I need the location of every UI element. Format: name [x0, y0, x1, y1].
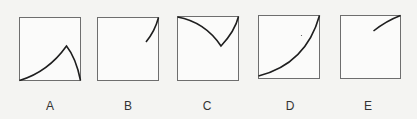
panel-e [341, 16, 401, 79]
panel-b-frame [98, 18, 159, 81]
panel-a-label: A [40, 99, 60, 113]
panel-e-frame [341, 16, 401, 79]
panel-d-frame [259, 16, 320, 79]
panel-c-label: C [197, 99, 217, 113]
panel-b-label: B [118, 99, 138, 113]
panel-a [20, 18, 81, 81]
panel-c [178, 17, 239, 81]
panel-d-speck [301, 35, 302, 36]
panel-d [259, 16, 320, 79]
panel-c-frame [178, 17, 239, 81]
panel-b [98, 18, 159, 81]
panel-d-label: D [280, 99, 300, 113]
panel-e-label: E [358, 99, 378, 113]
panel-a-frame [20, 18, 81, 81]
